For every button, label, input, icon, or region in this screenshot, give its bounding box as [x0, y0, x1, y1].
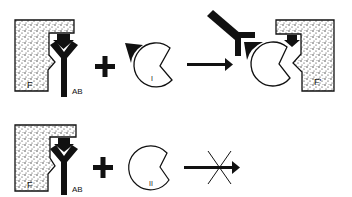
- enzyme-i-icon: I: [125, 43, 172, 87]
- blocked-arrow-icon[interactable]: [184, 151, 240, 184]
- enzyme-product-icon: [244, 42, 290, 86]
- surface-label: F: [27, 180, 33, 190]
- enzyme-ii-icon: II: [129, 146, 169, 190]
- enzyme-label: II: [149, 180, 153, 187]
- surface-f-prime-arrow-icon: [284, 35, 300, 47]
- plus-icon: [95, 56, 115, 77]
- reaction-arrow-icon[interactable]: [187, 58, 233, 71]
- plus-icon: [93, 157, 113, 178]
- surface-label: F: [27, 80, 33, 90]
- antibody-label: AB: [72, 185, 83, 194]
- enzyme-label: I: [151, 75, 153, 82]
- diagram-canvas: F AB I: [0, 0, 352, 197]
- product-surface-label: F': [314, 77, 321, 87]
- antibody-label: AB: [72, 87, 83, 96]
- row-1: F AB I: [15, 10, 334, 97]
- row-2: F AB II: [15, 125, 240, 195]
